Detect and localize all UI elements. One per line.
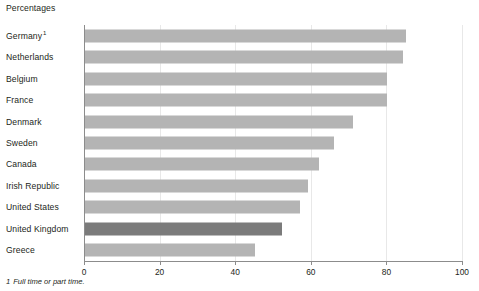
bar-belgium <box>85 72 387 85</box>
bar-united-kingdom <box>85 222 282 235</box>
bar-united-states <box>85 201 300 214</box>
category-label-denmark: Denmark <box>6 117 42 127</box>
category-label-germany: Germany1 <box>6 31 46 41</box>
bar-irish-republic <box>85 179 308 192</box>
x-tick-0 <box>84 261 85 265</box>
x-tick-20 <box>160 261 161 265</box>
x-tick-label-40: 40 <box>231 267 240 277</box>
bar-row: Denmark <box>0 111 479 132</box>
x-axis-line <box>84 261 463 262</box>
x-tick-label-20: 20 <box>155 267 164 277</box>
bar-denmark <box>85 115 353 128</box>
category-label-canada: Canada <box>6 159 37 169</box>
category-label-united-states: United States <box>6 202 59 212</box>
x-tick-40 <box>235 261 236 265</box>
category-label-irish-republic: Irish Republic <box>6 181 59 191</box>
bar-row: Greece <box>0 240 479 261</box>
bar-row: Sweden <box>0 132 479 153</box>
footnote: 1Full time or part time. <box>6 277 85 286</box>
bar-row: Belgium <box>0 68 479 89</box>
bar-row: Irish Republic <box>0 175 479 196</box>
bar-row: United Kingdom <box>0 218 479 239</box>
chart-container: Percentages 020406080100 Germany1Netherl… <box>0 0 479 291</box>
bar-row: Canada <box>0 154 479 175</box>
bar-france <box>85 94 387 107</box>
x-tick-label-0: 0 <box>82 267 87 277</box>
bar-row: Netherlands <box>0 46 479 67</box>
x-tick-80 <box>386 261 387 265</box>
footnote-text: Full time or part time. <box>13 277 84 286</box>
x-tick-label-60: 60 <box>306 267 315 277</box>
category-label-netherlands: Netherlands <box>6 52 53 62</box>
bar-row: Germany1 <box>0 25 479 46</box>
footnote-marker: 1 <box>6 277 10 286</box>
bar-netherlands <box>85 51 403 64</box>
bar-row: United States <box>0 197 479 218</box>
bar-greece <box>85 244 255 257</box>
x-tick-60 <box>311 261 312 265</box>
category-label-united-kingdom: United Kingdom <box>6 224 69 234</box>
bar-rows: Germany1NetherlandsBelgiumFranceDenmarkS… <box>0 25 479 261</box>
category-label-greece: Greece <box>6 245 35 255</box>
bar-sweden <box>85 136 334 149</box>
category-label-sweden: Sweden <box>6 138 38 148</box>
footnote-marker-sup: 1 <box>43 30 46 36</box>
bar-row: France <box>0 89 479 110</box>
x-tick-label-80: 80 <box>382 267 391 277</box>
x-tick-label-100: 100 <box>455 267 469 277</box>
category-label-france: France <box>6 95 33 105</box>
category-label-belgium: Belgium <box>6 74 38 84</box>
bar-canada <box>85 158 319 171</box>
page-title: Percentages <box>6 3 55 13</box>
x-tick-100 <box>462 261 463 265</box>
bar-germany <box>85 29 406 42</box>
